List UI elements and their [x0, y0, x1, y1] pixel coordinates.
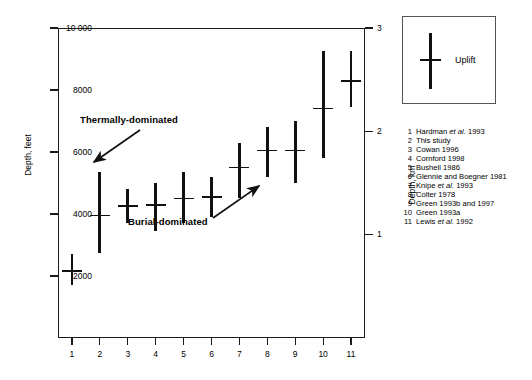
reference-text: Lewis et al. 1992	[416, 218, 532, 227]
legend-label-uplift: Uplift	[455, 55, 476, 65]
uplift-range-bar	[294, 121, 297, 183]
annotation-thermally-dominated: Thermally-dominated	[80, 114, 178, 125]
reference-list: 1Hardman et al. 19932This study3Cowan 19…	[400, 128, 532, 227]
uplift-center-tick-icon	[420, 59, 441, 61]
uplift-center-tick	[174, 198, 194, 200]
data-marks-layer	[0, 0, 380, 380]
uplift-range-bar	[266, 127, 269, 177]
reference-item: 11Lewis et al. 1992	[400, 218, 532, 227]
uplift-center-tick	[313, 108, 333, 110]
uplift-center-tick	[229, 167, 249, 169]
uplift-center-tick	[118, 205, 138, 207]
uplift-center-tick	[341, 80, 361, 82]
annotation-burial-dominated: Burial-dominated	[128, 216, 208, 227]
uplift-center-tick	[285, 150, 305, 152]
uplift-range-bar	[98, 172, 101, 253]
y-tick-label-right: 1	[377, 230, 401, 239]
uplift-center-tick	[146, 204, 166, 206]
y-tick-label-right: 2	[377, 127, 401, 136]
reference-number: 11	[400, 218, 412, 227]
legend-box: Uplift	[402, 16, 496, 104]
uplift-range-bar	[322, 51, 325, 158]
uplift-center-tick	[257, 150, 277, 152]
uplift-center-tick	[90, 215, 110, 217]
y-tick-label-right: 3	[377, 24, 401, 33]
uplift-center-tick	[202, 196, 222, 198]
uplift-range-bar	[238, 143, 241, 199]
chart-container: 200040006000800010 000 123 1234567891011…	[0, 0, 380, 380]
uplift-range-bar-icon	[429, 33, 432, 89]
uplift-center-tick	[62, 270, 82, 272]
